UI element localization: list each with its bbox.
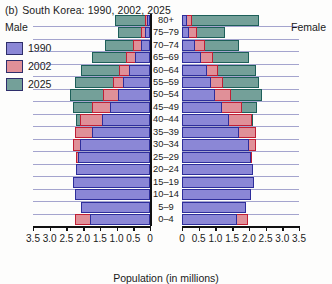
bar-1990-male-10-14 xyxy=(75,189,150,200)
tick-right xyxy=(215,226,216,231)
bar-1990-female-75-79 xyxy=(182,27,189,38)
tick-label-right-2.5: 2.5 xyxy=(259,233,273,244)
bar-1990-male-15-19 xyxy=(73,177,150,188)
bar-1990-female-0-4 xyxy=(182,214,237,225)
female-panel xyxy=(182,14,299,226)
bar-1990-male-50-54 xyxy=(118,89,150,100)
tick-right xyxy=(299,226,300,231)
bar-1990-male-25-29 xyxy=(78,152,150,163)
age-label-15-19: 15–19 xyxy=(150,177,182,188)
bar-1990-female-45-49 xyxy=(182,102,222,113)
tick-label-right-0.5: 0.5 xyxy=(192,233,206,244)
tick-right xyxy=(199,226,200,231)
age-label-30-34: 30–34 xyxy=(150,139,182,150)
tick-right xyxy=(249,226,250,231)
age-label-0-4: 0–4 xyxy=(150,214,182,225)
tick-left xyxy=(150,226,151,231)
male-panel xyxy=(33,14,150,226)
bar-2025-female-80+ xyxy=(182,15,259,26)
tick-label-right-1.0: 1.0 xyxy=(208,233,222,244)
tick-left xyxy=(133,226,134,231)
bar-1990-female-5-9 xyxy=(182,202,246,213)
age-label-10-14: 10–14 xyxy=(150,189,182,200)
tick-left xyxy=(33,226,34,231)
tick-left xyxy=(100,226,101,231)
bar-1990-male-5-9 xyxy=(81,202,150,213)
bar-1990-female-40-44 xyxy=(182,114,229,125)
age-label-40-44: 40–44 xyxy=(150,114,182,125)
bar-1990-female-35-39 xyxy=(182,127,239,138)
bar-1990-female-70-74 xyxy=(182,40,195,51)
bar-1990-female-80+ xyxy=(182,15,187,26)
age-label-60-64: 60–64 xyxy=(150,65,182,76)
tick-right xyxy=(232,226,233,231)
age-label-80+: 80+ xyxy=(150,15,182,26)
bar-1990-male-40-44 xyxy=(102,114,150,125)
age-label-65-69: 65–69 xyxy=(150,52,182,63)
age-label-25-29: 25–29 xyxy=(150,152,182,163)
plot-area: 0–45–910–1415–1920–2425–2930–3435–3940–4… xyxy=(0,14,332,242)
tick-label-right-0: 0 xyxy=(179,233,185,244)
age-label-55-59: 55–59 xyxy=(150,77,182,88)
tick-right xyxy=(182,226,183,231)
bar-1990-female-15-19 xyxy=(182,177,254,188)
bar-1990-female-50-54 xyxy=(182,89,215,100)
tick-label-left-1.5: 1.5 xyxy=(93,233,107,244)
bar-1990-female-55-59 xyxy=(182,77,211,88)
tick-left xyxy=(117,226,118,231)
tick-label-left-3.0: 3.0 xyxy=(43,233,57,244)
bar-1990-female-60-64 xyxy=(182,65,207,76)
age-label-70-74: 70–74 xyxy=(150,40,182,51)
age-label-35-39: 35–39 xyxy=(150,127,182,138)
tick-label-left-3.5: 3.5 xyxy=(26,233,40,244)
bar-1990-male-35-39 xyxy=(92,127,151,138)
bar-1990-male-70-74 xyxy=(141,40,150,51)
tick-label-left-0: 0 xyxy=(147,233,153,244)
bar-1990-male-55-59 xyxy=(123,77,150,88)
bar-1990-male-20-24 xyxy=(76,164,150,175)
tick-label-right-3.5: 3.5 xyxy=(292,233,306,244)
bar-1990-male-30-34 xyxy=(80,139,150,150)
age-label-20-24: 20–24 xyxy=(150,164,182,175)
bar-1990-female-20-24 xyxy=(182,164,253,175)
tick-left xyxy=(83,226,84,231)
tick-right xyxy=(266,226,267,231)
bar-1990-male-65-69 xyxy=(135,52,150,63)
age-group-labels: 0–45–910–1415–1920–2425–2930–3435–3940–4… xyxy=(150,14,182,226)
bar-1990-male-45-49 xyxy=(110,102,150,113)
tick-label-right-2.0: 2.0 xyxy=(242,233,256,244)
age-label-50-54: 50–54 xyxy=(150,89,182,100)
tick-label-right-1.5: 1.5 xyxy=(225,233,239,244)
age-label-5-9: 5–9 xyxy=(150,202,182,213)
tick-left xyxy=(66,226,67,231)
bar-1990-female-10-14 xyxy=(182,189,251,200)
tick-label-right-3.0: 3.0 xyxy=(275,233,289,244)
tick-label-left-0.5: 0.5 xyxy=(126,233,140,244)
x-axis-title: Population (in millions) xyxy=(0,272,332,284)
tick-label-left-2.0: 2.0 xyxy=(76,233,90,244)
bar-1990-female-30-34 xyxy=(182,139,249,150)
age-label-45-49: 45–49 xyxy=(150,102,182,113)
bar-1990-female-25-29 xyxy=(182,152,251,163)
tick-left xyxy=(50,226,51,231)
tick-right xyxy=(282,226,283,231)
bar-1990-male-60-64 xyxy=(129,65,150,76)
age-label-75-79: 75–79 xyxy=(150,27,182,38)
tick-label-left-1.0: 1.0 xyxy=(110,233,124,244)
bar-1990-female-65-69 xyxy=(182,52,201,63)
tick-label-left-2.5: 2.5 xyxy=(59,233,73,244)
bar-1990-male-0-4 xyxy=(90,214,150,225)
